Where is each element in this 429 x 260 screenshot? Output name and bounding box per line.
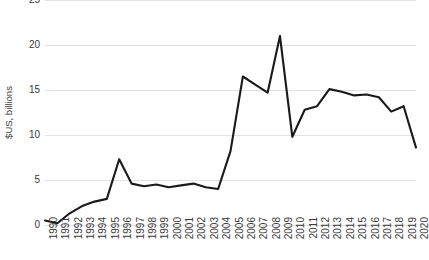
x-tick-label: 2010 xyxy=(296,217,306,239)
x-tick-label: 2004 xyxy=(222,217,232,239)
x-tick-label: 1996 xyxy=(123,217,133,239)
x-tick-label: 2011 xyxy=(309,217,319,239)
y-tick-label: 15 xyxy=(0,85,40,95)
x-tick-label: 1993 xyxy=(86,217,96,239)
x-tick-label: 2008 xyxy=(272,217,282,239)
x-axis-tick-labels: 1990199119921993199419951996199719981999… xyxy=(45,217,425,260)
line-chart: $US, billions 0510152025 199019911992199… xyxy=(0,0,429,260)
y-tick-label: 20 xyxy=(0,40,40,50)
x-tick-label: 2016 xyxy=(371,217,381,239)
x-tick-label: 1998 xyxy=(148,217,158,239)
y-axis-tick-labels: 0510152025 xyxy=(0,0,40,260)
x-tick-label: 1990 xyxy=(49,217,59,239)
x-tick-label: 2018 xyxy=(395,217,405,239)
x-tick-label: 2009 xyxy=(284,217,294,239)
x-tick-label: 2013 xyxy=(333,217,343,239)
x-tick-label: 2014 xyxy=(346,217,356,239)
x-tick-label: 1994 xyxy=(98,217,108,239)
x-tick-label: 1991 xyxy=(61,217,71,239)
x-tick-label: 2017 xyxy=(383,217,393,239)
plot-area xyxy=(45,0,416,225)
y-tick-label: 5 xyxy=(0,175,40,185)
x-tick-label: 2005 xyxy=(235,217,245,239)
y-tick-label: 10 xyxy=(0,130,40,140)
data-series-line xyxy=(45,0,416,225)
x-tick-label: 2003 xyxy=(210,217,220,239)
x-tick-label: 2001 xyxy=(185,217,195,239)
x-tick-label: 2015 xyxy=(358,217,368,239)
x-tick-label: 1997 xyxy=(136,217,146,239)
x-tick-label: 2007 xyxy=(259,217,269,239)
x-tick-label: 2000 xyxy=(173,217,183,239)
x-tick-label: 2019 xyxy=(408,217,418,239)
x-tick-label: 1995 xyxy=(111,217,121,239)
x-tick-label: 2012 xyxy=(321,217,331,239)
x-tick-label: 2006 xyxy=(247,217,257,239)
x-tick-label: 2020 xyxy=(420,217,429,239)
x-tick-label: 1992 xyxy=(74,217,84,239)
y-tick-label: 0 xyxy=(0,220,40,230)
x-tick-label: 2002 xyxy=(197,217,207,239)
x-tick-label: 1999 xyxy=(160,217,170,239)
y-tick-label: 25 xyxy=(0,0,40,5)
